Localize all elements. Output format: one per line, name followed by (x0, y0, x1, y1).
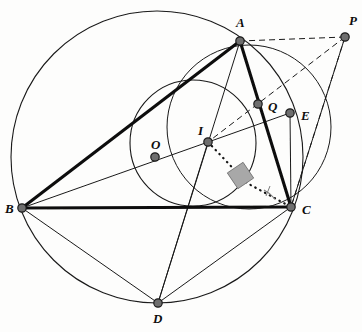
point-label-P: P (349, 14, 357, 27)
dashed-segment-PI (208, 37, 345, 142)
segment-ID (158, 142, 208, 303)
point-label-O: O (151, 138, 160, 151)
point-label-I: I (198, 124, 203, 137)
geometry-figure: A B C D E I O P Q (0, 0, 362, 332)
segment-BD (22, 208, 158, 303)
point-label-A: A (236, 16, 245, 29)
point-B[interactable] (18, 204, 26, 212)
dashed-segment-PA (240, 37, 345, 41)
triangle-side-BC (22, 207, 291, 208)
point-D[interactable] (154, 299, 162, 307)
point-I[interactable] (204, 138, 212, 146)
point-Q[interactable] (254, 100, 262, 108)
point-label-C: C (302, 203, 311, 216)
figure-canvas (0, 0, 362, 332)
point-A[interactable] (236, 37, 244, 45)
triangle-side-AB (22, 41, 240, 208)
point-O[interactable] (151, 153, 159, 161)
segment-EC (290, 113, 291, 207)
segment-CD (158, 207, 291, 303)
point-label-D: D (153, 312, 162, 325)
point-label-E: E (301, 109, 310, 122)
point-P[interactable] (341, 33, 349, 41)
point-label-Q: Q (268, 100, 277, 113)
point-E[interactable] (286, 109, 294, 117)
point-C[interactable] (287, 203, 295, 211)
point-label-B: B (5, 202, 14, 215)
